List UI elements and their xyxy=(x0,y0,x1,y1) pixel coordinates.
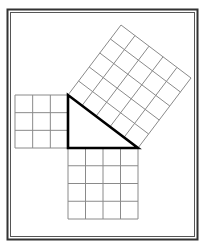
leg-b-square xyxy=(68,148,138,219)
leg-a-square xyxy=(15,95,68,148)
pythagorean-diagram: Pythagorean theorem 3-4-5 right triangle… xyxy=(0,0,208,243)
